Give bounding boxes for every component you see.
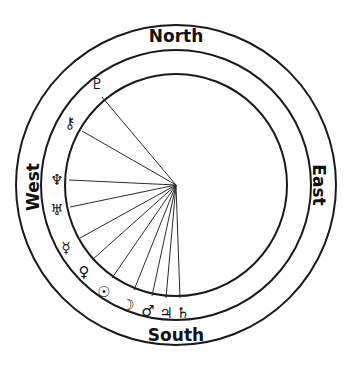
spoke-uranus <box>70 185 176 207</box>
spoke-venus <box>92 185 176 260</box>
mercury-icon: ☿ <box>61 239 70 257</box>
venus-icon: ♀ <box>79 263 90 281</box>
neptune-icon: ♆ <box>50 171 63 189</box>
spoke-saturn <box>176 185 180 298</box>
chiron-icon: ⚷ <box>65 114 76 132</box>
spoke-chiron <box>82 131 176 185</box>
astrology-chart: North South East West ♇⚷♆♅☿♀☉☽♂♃♄ <box>0 0 353 368</box>
spoke-pluto <box>102 97 176 185</box>
west-label: West <box>23 163 43 211</box>
spoke-jupiter <box>166 185 176 298</box>
uranus-icon: ♅ <box>50 201 63 219</box>
saturn-icon: ♄ <box>176 304 189 322</box>
spoke-neptune <box>69 180 176 185</box>
east-label: East <box>309 164 329 205</box>
mars-icon: ♂ <box>141 302 154 320</box>
south-label: South <box>148 325 204 345</box>
sun-icon: ☉ <box>97 283 110 301</box>
pluto-icon: ♇ <box>90 75 103 93</box>
jupiter-icon: ♃ <box>159 304 172 322</box>
north-label: North <box>149 26 204 46</box>
moon-icon: ☽ <box>121 296 134 314</box>
planet-glyphs: ♇⚷♆♅☿♀☉☽♂♃♄ <box>50 75 189 322</box>
spoke-mercury <box>80 185 176 238</box>
